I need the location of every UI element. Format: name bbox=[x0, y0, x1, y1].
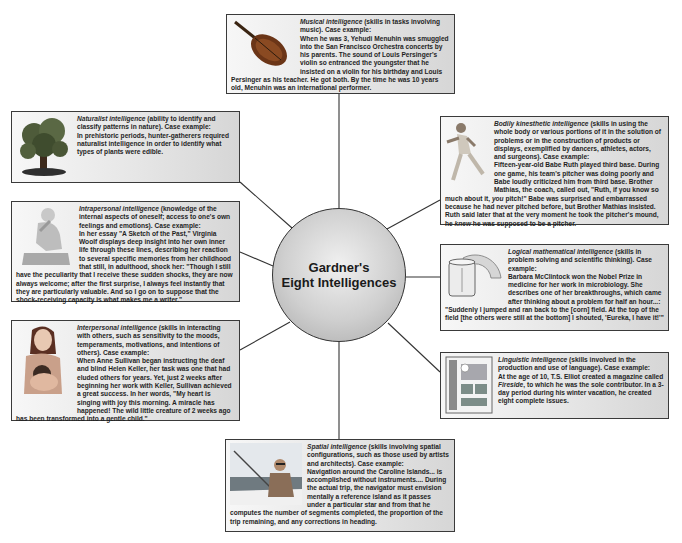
intrapersonal-title: Intrapersonal intelligence bbox=[79, 205, 159, 212]
interpersonal-title: Interpersonal intelligence bbox=[77, 324, 157, 331]
lab-beaker-icon bbox=[445, 248, 503, 302]
linguistic-title: Linguistic intelligence bbox=[498, 356, 567, 363]
spatial-intelligence-box: Spatial intelligence (skills involving s… bbox=[225, 439, 455, 532]
bodily-example-part3: he was supposed to be a pitcher. bbox=[471, 220, 576, 227]
logical-mathematical-title: Logical mathematical intelligence bbox=[508, 248, 613, 255]
linguistic-example-part1: At the age of 10, T.S. Elliot created a … bbox=[498, 373, 663, 380]
naturalist-title: Naturalist intelligence bbox=[77, 115, 146, 122]
bodily-example-emphasis-knew: knew bbox=[455, 220, 472, 227]
center-circle: Gardner's Eight Intelligences bbox=[272, 208, 406, 342]
tree-icon bbox=[16, 115, 72, 179]
bodily-kinesthetic-title: Bodily kinesthetic intelligence bbox=[494, 120, 589, 127]
linguistic-example-emphasis: Fireside bbox=[498, 381, 523, 388]
mother-child-icon bbox=[16, 324, 72, 406]
interpersonal-intelligence-box: Interpersonal intelligence (skills in in… bbox=[11, 320, 240, 421]
naturalist-intelligence-box: Naturalist intelligence (ability to iden… bbox=[11, 111, 240, 183]
diagram-title: Gardner's Eight Intelligences bbox=[282, 260, 397, 290]
sailor-navigator-icon bbox=[230, 443, 302, 507]
musical-title: Musical intelligence bbox=[300, 18, 362, 25]
linguistic-example-part2: , to which he was the sole contributor. … bbox=[498, 381, 664, 405]
thinker-statue-icon bbox=[16, 205, 74, 269]
violin-icon bbox=[231, 18, 295, 72]
title-line-1: Gardner's bbox=[309, 260, 370, 275]
logical-mathematical-intelligence-box: Logical mathematical intelligence (skill… bbox=[440, 244, 669, 331]
naturalist-example: In prehistoric periods, hunter-gatherers… bbox=[77, 132, 229, 156]
spatial-title: Spatial intelligence bbox=[307, 443, 367, 450]
magazine-page-icon bbox=[445, 356, 493, 416]
intrapersonal-intelligence-box: Intrapersonal intelligence (knowledge of… bbox=[11, 201, 240, 302]
title-line-2: Eight Intelligences bbox=[282, 275, 397, 290]
bodily-kinesthetic-intelligence-box: Bodily kinesthetic intelligence (skills … bbox=[440, 116, 669, 225]
musical-intelligence-box: Musical intelligence (skills in tasks in… bbox=[226, 14, 455, 94]
baseball-pitcher-icon bbox=[445, 120, 489, 188]
bodily-example-emphasis-you: you bbox=[492, 195, 504, 202]
linguistic-intelligence-box: Linguistic intelligence (skills involved… bbox=[440, 352, 669, 419]
